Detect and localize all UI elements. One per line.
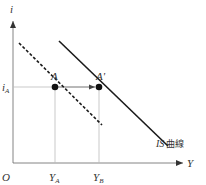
origin-label: O	[2, 171, 10, 183]
tick-ia: iA	[2, 81, 10, 95]
point-a-label: A	[50, 70, 58, 82]
is-curve-label: IS曲線	[155, 138, 184, 149]
tick-ya: YA	[49, 171, 60, 185]
original-is-curve	[19, 43, 102, 125]
shifted-is-curve	[59, 41, 168, 146]
x-axis-label: Y	[187, 157, 195, 169]
is-curve-diagram: i Y O A A' iA YA YB IS曲線	[0, 0, 206, 185]
point-a-prime-label: A'	[95, 70, 106, 82]
tick-yb: YB	[93, 171, 104, 185]
point-a-prime	[96, 84, 103, 91]
point-a	[52, 84, 59, 91]
y-axis-label: i	[10, 3, 13, 15]
